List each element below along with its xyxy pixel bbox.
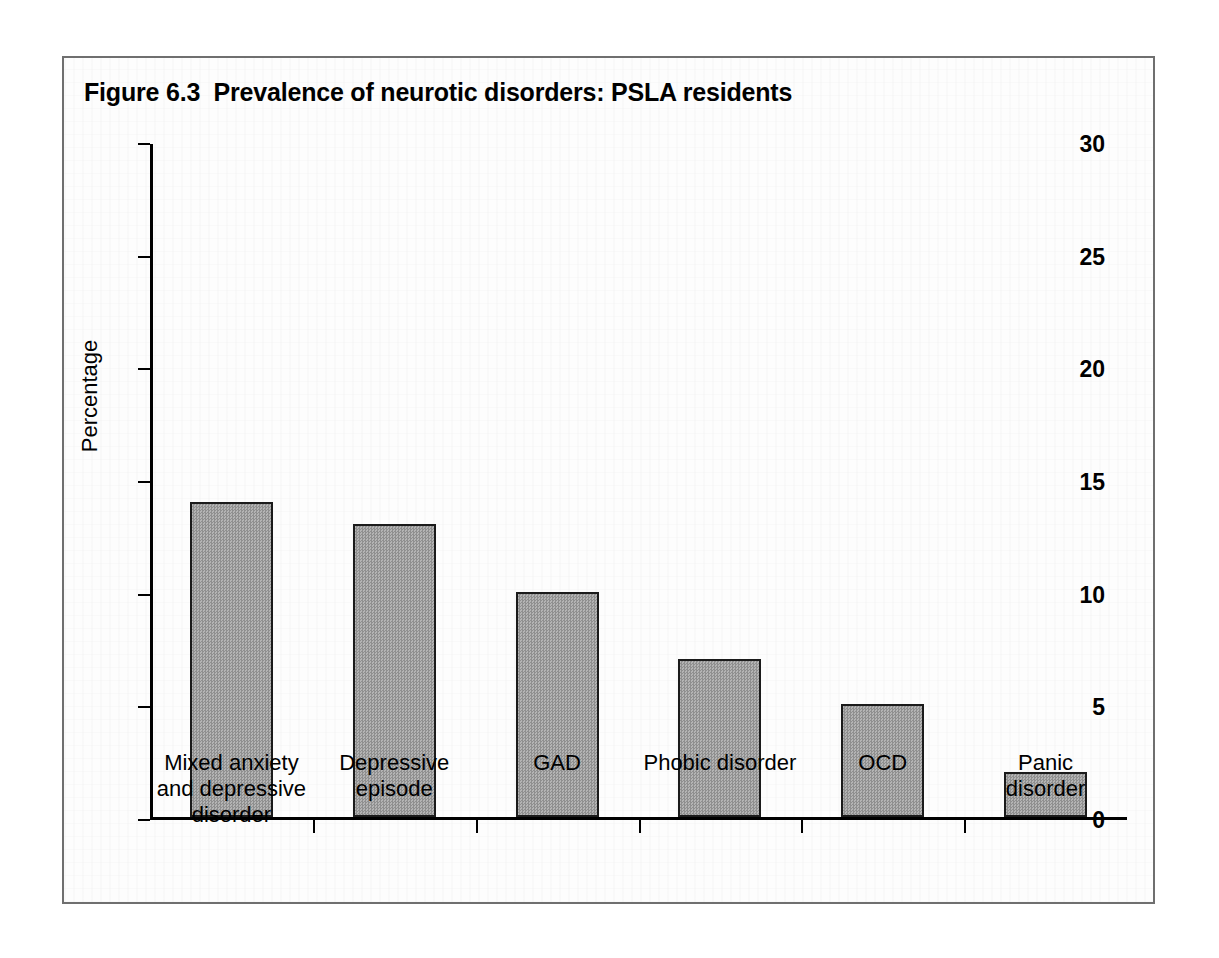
y-axis-tick: [138, 594, 150, 596]
y-axis-tick: [138, 368, 150, 370]
y-axis-tick-label: 5: [1092, 694, 1105, 721]
y-axis-title: Percentage: [77, 340, 103, 453]
bar: [678, 659, 761, 817]
y-axis-tick: [138, 819, 150, 821]
y-axis-tick-label: 0: [1092, 807, 1105, 834]
y-axis-tick-label: 30: [1079, 131, 1105, 158]
x-axis-category-label: GAD: [533, 750, 581, 776]
x-axis-category-label: Panic disorder: [992, 750, 1099, 802]
plot-area: 051015202530: [150, 144, 1127, 820]
bar: [516, 592, 599, 817]
y-axis-tick: [138, 481, 150, 483]
y-axis-tick: [138, 143, 150, 145]
x-axis-category-label: Phobic disorder: [643, 750, 796, 776]
y-axis-tick-label: 10: [1079, 581, 1105, 608]
x-axis-tick: [639, 820, 641, 833]
page-title: Figure 6.3 Prevalence of neurotic disord…: [84, 78, 792, 107]
y-axis-tick-label: 20: [1079, 356, 1105, 383]
x-axis-tick: [313, 820, 315, 833]
x-axis-category-label: Mixed anxiety and depressive disorder: [157, 750, 306, 828]
x-axis-tick: [964, 820, 966, 833]
x-axis-category-label: Depressive episode: [339, 750, 449, 802]
x-axis-category-label: OCD: [858, 750, 907, 776]
figure-frame: Figure 6.3 Prevalence of neurotic disord…: [62, 56, 1155, 904]
x-axis-tick: [476, 820, 478, 833]
y-axis-tick-label: 25: [1079, 243, 1105, 270]
x-axis-tick: [801, 820, 803, 833]
y-axis-tick: [138, 706, 150, 708]
y-axis-tick: [138, 256, 150, 258]
y-axis-line: [150, 144, 153, 820]
y-axis-tick-label: 15: [1079, 469, 1105, 496]
